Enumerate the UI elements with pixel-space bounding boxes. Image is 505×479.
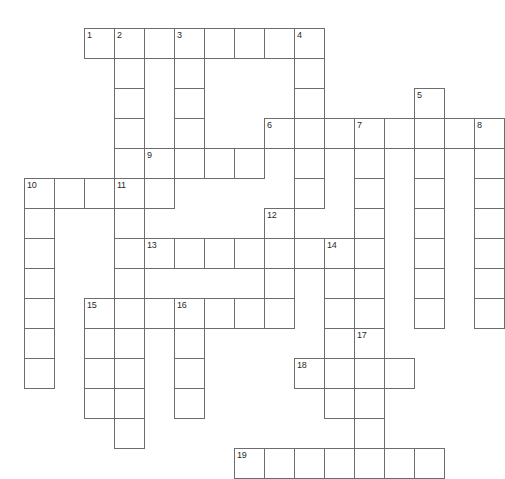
crossword-cell[interactable] <box>354 328 385 359</box>
crossword-cell[interactable] <box>474 208 505 239</box>
crossword-cell[interactable] <box>24 208 55 239</box>
crossword-cell[interactable] <box>354 298 385 329</box>
crossword-cell[interactable] <box>114 208 145 239</box>
crossword-cell[interactable] <box>144 28 175 59</box>
crossword-cell[interactable] <box>294 88 325 119</box>
crossword-cell[interactable] <box>264 118 295 149</box>
crossword-cell[interactable] <box>414 178 445 209</box>
crossword-cell[interactable] <box>294 118 325 149</box>
crossword-cell[interactable] <box>174 358 205 389</box>
crossword-cell[interactable] <box>324 268 355 299</box>
crossword-cell[interactable] <box>354 388 385 419</box>
crossword-cell[interactable] <box>114 148 145 179</box>
crossword-cell[interactable] <box>414 148 445 179</box>
crossword-cell[interactable] <box>354 358 385 389</box>
crossword-cell[interactable] <box>414 298 445 329</box>
crossword-cell[interactable] <box>354 208 385 239</box>
crossword-cell[interactable] <box>174 148 205 179</box>
crossword-cell[interactable] <box>354 178 385 209</box>
crossword-cell[interactable] <box>474 268 505 299</box>
crossword-cell[interactable] <box>474 148 505 179</box>
crossword-cell[interactable] <box>264 238 295 269</box>
crossword-cell[interactable] <box>144 148 175 179</box>
crossword-cell[interactable] <box>234 238 265 269</box>
crossword-cell[interactable] <box>234 298 265 329</box>
crossword-cell[interactable] <box>144 298 175 329</box>
crossword-cell[interactable] <box>264 448 295 479</box>
crossword-cell[interactable] <box>294 448 325 479</box>
crossword-cell[interactable] <box>474 178 505 209</box>
crossword-cell[interactable] <box>354 148 385 179</box>
crossword-cell[interactable] <box>384 448 415 479</box>
crossword-cell[interactable] <box>174 298 205 329</box>
crossword-cell[interactable] <box>84 178 115 209</box>
crossword-cell[interactable] <box>114 58 145 89</box>
crossword-cell[interactable] <box>414 448 445 479</box>
crossword-cell[interactable] <box>354 118 385 149</box>
crossword-cell[interactable] <box>24 268 55 299</box>
crossword-cell[interactable] <box>174 58 205 89</box>
crossword-cell[interactable] <box>24 238 55 269</box>
crossword-cell[interactable] <box>294 178 325 209</box>
crossword-cell[interactable] <box>294 28 325 59</box>
crossword-cell[interactable] <box>114 88 145 119</box>
crossword-cell[interactable] <box>84 298 115 329</box>
crossword-cell[interactable] <box>474 298 505 329</box>
crossword-cell[interactable] <box>174 388 205 419</box>
crossword-cell[interactable] <box>294 148 325 179</box>
crossword-cell[interactable] <box>174 238 205 269</box>
crossword-cell[interactable] <box>114 238 145 269</box>
crossword-cell[interactable] <box>264 298 295 329</box>
crossword-cell[interactable] <box>114 358 145 389</box>
crossword-cell[interactable] <box>324 328 355 359</box>
crossword-cell[interactable] <box>354 418 385 449</box>
crossword-cell[interactable] <box>174 328 205 359</box>
crossword-cell[interactable] <box>474 238 505 269</box>
crossword-cell[interactable] <box>24 358 55 389</box>
crossword-cell[interactable] <box>204 28 235 59</box>
crossword-cell[interactable] <box>414 88 445 119</box>
crossword-cell[interactable] <box>234 448 265 479</box>
crossword-cell[interactable] <box>324 118 355 149</box>
crossword-cell[interactable] <box>294 238 325 269</box>
crossword-cell[interactable] <box>144 178 175 209</box>
crossword-cell[interactable] <box>234 148 265 179</box>
crossword-cell[interactable] <box>204 238 235 269</box>
crossword-cell[interactable] <box>384 358 415 389</box>
crossword-cell[interactable] <box>174 118 205 149</box>
crossword-cell[interactable] <box>114 178 145 209</box>
crossword-cell[interactable] <box>444 118 475 149</box>
crossword-cell[interactable] <box>414 268 445 299</box>
crossword-cell[interactable] <box>414 208 445 239</box>
crossword-cell[interactable] <box>114 298 145 329</box>
crossword-cell[interactable] <box>114 328 145 359</box>
crossword-cell[interactable] <box>114 418 145 449</box>
crossword-cell[interactable] <box>204 148 235 179</box>
crossword-cell[interactable] <box>294 358 325 389</box>
crossword-cell[interactable] <box>174 28 205 59</box>
crossword-cell[interactable] <box>324 358 355 389</box>
crossword-cell[interactable] <box>84 388 115 419</box>
crossword-cell[interactable] <box>294 58 325 89</box>
crossword-cell[interactable] <box>324 238 355 269</box>
crossword-cell[interactable] <box>354 268 385 299</box>
crossword-cell[interactable] <box>324 298 355 329</box>
crossword-cell[interactable] <box>324 448 355 479</box>
crossword-cell[interactable] <box>264 268 295 299</box>
crossword-cell[interactable] <box>474 118 505 149</box>
crossword-cell[interactable] <box>174 88 205 119</box>
crossword-cell[interactable] <box>234 28 265 59</box>
crossword-cell[interactable] <box>84 358 115 389</box>
crossword-cell[interactable] <box>54 178 85 209</box>
crossword-cell[interactable] <box>24 298 55 329</box>
crossword-cell[interactable] <box>84 28 115 59</box>
crossword-cell[interactable] <box>324 388 355 419</box>
crossword-cell[interactable] <box>24 178 55 209</box>
crossword-cell[interactable] <box>204 298 235 329</box>
crossword-cell[interactable] <box>24 328 55 359</box>
crossword-cell[interactable] <box>264 208 295 239</box>
crossword-cell[interactable] <box>414 118 445 149</box>
crossword-cell[interactable] <box>114 268 145 299</box>
crossword-cell[interactable] <box>384 118 415 149</box>
